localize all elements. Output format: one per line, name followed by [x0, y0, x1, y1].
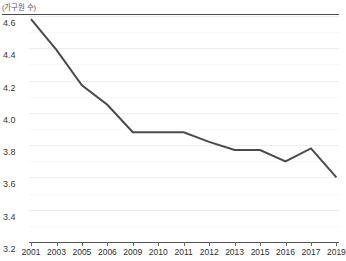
x-axis-tick-mark — [260, 242, 261, 246]
plot-area — [29, 16, 339, 242]
series-line-svg — [29, 16, 339, 242]
x-axis-tick-mark — [158, 242, 159, 246]
x-axis-tick-mark — [209, 242, 210, 246]
x-axis-tick-mark — [31, 242, 32, 246]
y-axis-tick-label: 3.4 — [3, 212, 16, 222]
x-axis-tick-mark — [286, 242, 287, 246]
y-axis-tick-label: 4.4 — [3, 50, 16, 60]
x-axis-tick-mark — [336, 242, 337, 246]
y-axis-tick-label: 3.2 — [3, 244, 16, 254]
x-axis-tick-label: 2010 — [149, 247, 168, 257]
y-axis-tick-label: 4.0 — [3, 115, 16, 125]
x-axis-tick-label: 2012 — [200, 247, 219, 257]
chart-top-rule — [2, 14, 339, 15]
x-axis-tick-label: 2011 — [175, 247, 193, 257]
x-axis-tick-label: 2016 — [276, 247, 295, 257]
series-line-household-size — [31, 19, 336, 177]
x-axis-tick-mark — [133, 242, 134, 246]
x-axis-tick-label: 2006 — [98, 247, 117, 257]
y-axis-tick-label: 3.6 — [3, 179, 16, 189]
x-axis-tick-label: 2003 — [47, 247, 66, 257]
y-axis-tick-label: 3.8 — [3, 147, 16, 157]
x-axis-tick-label: 2015 — [251, 247, 270, 257]
x-axis-tick-label: 2009 — [123, 247, 142, 257]
x-axis-tick-mark — [235, 242, 236, 246]
x-axis-tick-mark — [311, 242, 312, 246]
y-axis-tick-label: 4.2 — [3, 83, 16, 93]
y-axis-unit-label: (가구원 수) — [2, 1, 36, 12]
y-axis-tick-label: 4.6 — [3, 18, 16, 28]
x-axis-tick-label: 2013 — [225, 247, 244, 257]
x-axis-tick-label: 2001 — [22, 247, 41, 257]
x-axis-tick-mark — [184, 242, 185, 246]
x-axis-tick-mark — [107, 242, 108, 246]
x-axis-tick-mark — [82, 242, 83, 246]
x-axis-tick-mark — [57, 242, 58, 246]
x-axis-tick-label: 2017 — [302, 247, 321, 257]
x-axis-tick-label: 2005 — [72, 247, 91, 257]
x-axis-tick-label: 2019 — [327, 247, 346, 257]
